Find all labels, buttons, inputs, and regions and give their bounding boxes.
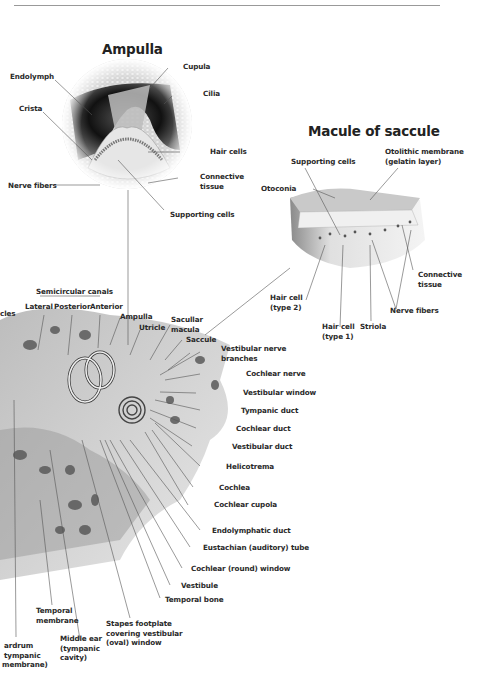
label-vestibule: Vestibule: [181, 581, 218, 591]
label-line: membrane): [0, 660, 48, 670]
label-striola: Striola: [360, 322, 386, 332]
label-endolymphatic-duct: Endolymphatic duct: [212, 526, 291, 536]
label-supporting-cells-macule: Supporting cells: [291, 157, 355, 167]
label-hair-cells: Hair cells: [210, 147, 247, 157]
label-line: Temporal: [36, 606, 79, 616]
label-temporal-bone: Temporal bone: [165, 595, 224, 605]
label-line: branches: [221, 354, 286, 364]
label-line: Connective: [418, 270, 462, 280]
label-otolithic-membrane: Otolithic membrane (gelatin layer): [385, 147, 464, 166]
label-line: Connective: [200, 172, 244, 182]
label-hair-cell-type2: Hair cell (type 2): [270, 293, 303, 312]
label-line: (tympanic: [60, 644, 102, 654]
label-line: Hair cell: [270, 293, 303, 303]
label-line: membrane: [36, 616, 79, 626]
label-line: Hair cell: [322, 322, 355, 332]
label-line: Otolithic membrane: [385, 147, 464, 157]
label-cochlea: Cochlea: [219, 483, 250, 493]
label-connective-tissue: Connective tissue: [200, 172, 244, 191]
label-stapes-footplate: Stapes footplate covering vestibular (ov…: [106, 619, 183, 648]
ampulla-title: Ampulla: [102, 41, 163, 57]
label-line: Vestibular nerve: [221, 344, 286, 354]
label-line: tissue: [418, 280, 462, 290]
label-saccule: Saccule: [186, 335, 216, 345]
label-cochlear-duct: Cochlear duct: [236, 424, 290, 434]
label-vestibular-duct: Vestibular duct: [232, 442, 292, 452]
label-vestibular-window: Vestibular window: [243, 388, 316, 398]
label-cochlear-nerve: Cochlear nerve: [246, 369, 306, 379]
label-connective-tissue-macule: Connective tissue: [418, 270, 462, 289]
label-cochlear-cupola: Cochlear cupola: [214, 500, 277, 510]
label-ossicles-fragment: cles: [0, 309, 15, 319]
label-crista: Crista: [19, 104, 42, 114]
label-utricle: Utricle: [139, 323, 165, 333]
label-hair-cell-type1: Hair cell (type 1): [322, 322, 355, 341]
label-line: covering vestibular: [106, 629, 183, 639]
label-line: tympanic: [0, 651, 48, 661]
label-line: (gelatin layer): [385, 157, 464, 167]
label-posterior: Posterior: [54, 302, 90, 312]
label-line: (oval) window: [106, 638, 183, 648]
label-cilia: Cilia: [203, 89, 220, 99]
label-temporal-membrane: Temporal membrane: [36, 606, 79, 625]
label-nerve-fibers: Nerve fibers: [8, 181, 57, 191]
label-semicircular-canals: Semicircular canals: [36, 287, 113, 297]
label-line: ardrum: [0, 641, 48, 651]
label-lateral: Lateral: [25, 302, 53, 312]
label-cupula: Cupula: [183, 62, 210, 72]
label-line: Stapes footplate: [106, 619, 183, 629]
label-line: Middle ear: [60, 634, 102, 644]
label-line: macula: [171, 325, 203, 335]
label-vestibular-nerve-branches: Vestibular nerve branches: [221, 344, 286, 363]
label-nerve-fibers-macule: Nerve fibers: [390, 306, 439, 316]
label-saccular-macula: Sacullar macula: [171, 315, 203, 334]
label-supporting-cells: Supporting cells: [170, 210, 234, 220]
label-ampulla-inner: Ampulla: [120, 312, 152, 322]
label-line: (type 2): [270, 303, 303, 313]
label-endolymph: Endolymph: [10, 72, 54, 82]
label-anterior: Anterior: [90, 302, 123, 312]
inner-ear-illustration: [0, 309, 230, 580]
label-eustachian-tube: Eustachian (auditory) tube: [203, 543, 309, 553]
label-line: tissue: [200, 182, 244, 192]
label-line: cavity): [60, 653, 102, 663]
label-tympanic-duct: Tympanic duct: [241, 406, 298, 416]
label-helicotrema: Helicotrema: [226, 462, 274, 472]
label-cochlear-round-window: Cochlear (round) window: [191, 564, 290, 574]
macule-title: Macule of saccule: [308, 123, 440, 139]
label-middle-ear: Middle ear (tympanic cavity): [60, 634, 102, 663]
macule-illustration: [290, 189, 425, 268]
label-line: Sacullar: [171, 315, 203, 325]
label-otoconia: Otoconia: [261, 184, 296, 194]
label-line: (type 1): [322, 332, 355, 342]
label-eardrum: ardrum tympanic membrane): [0, 641, 48, 670]
